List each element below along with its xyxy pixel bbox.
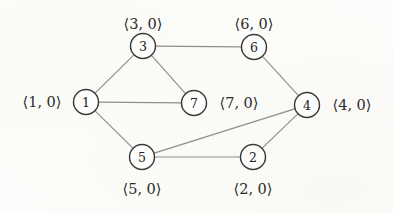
graph-node-label-3: 3 [139,40,147,53]
graph-node-label-4: 4 [303,99,311,112]
graph-node-label-5: 5 [138,151,146,164]
graph-edge-6-4 [262,56,299,96]
graph-node-label-1: 1 [82,96,90,109]
graph-node-label-6: 6 [250,41,258,54]
graph-edge-2-4 [262,113,299,148]
graph-node-label-7: 7 [190,97,198,110]
graph-edge-5-4 [153,109,295,154]
graph-edge-1-5 [95,110,134,148]
graph-edge-3-7 [151,55,186,94]
graph-node-label-2: 2 [249,151,257,164]
graph-edge-3-6 [155,46,242,47]
figure-canvas: 1234567 ⟨1, 0⟩⟨2, 0⟩⟨3, 0⟩⟨4, 0⟩⟨5, 0⟩⟨6… [0,0,393,213]
graph-edge-1-7 [98,102,182,103]
graph-edge-1-3 [95,54,135,93]
